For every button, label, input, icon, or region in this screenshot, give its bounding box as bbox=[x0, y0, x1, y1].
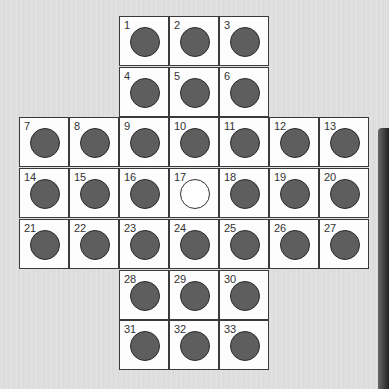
peg-icon[interactable] bbox=[130, 281, 160, 311]
board-cell-16[interactable]: 16 bbox=[119, 168, 169, 218]
cell-number-label: 23 bbox=[124, 222, 136, 234]
cell-number-label: 31 bbox=[124, 323, 136, 335]
board-cell-29[interactable]: 29 bbox=[169, 270, 219, 320]
board-cell-28[interactable]: 28 bbox=[119, 270, 169, 320]
page-edge-shadow bbox=[378, 128, 389, 389]
peg-icon[interactable] bbox=[130, 128, 160, 158]
board-cell-33[interactable]: 33 bbox=[219, 320, 269, 370]
board-cell-22[interactable]: 22 bbox=[69, 219, 119, 269]
peg-icon[interactable] bbox=[280, 128, 310, 158]
peg-icon[interactable] bbox=[280, 179, 310, 209]
peg-solitaire-board: 1234567891011121314151617181920212223242… bbox=[19, 16, 371, 370]
board-cell-30[interactable]: 30 bbox=[219, 270, 269, 320]
peg-icon[interactable] bbox=[30, 128, 60, 158]
board-cell-5[interactable]: 5 bbox=[169, 67, 219, 117]
peg-icon[interactable] bbox=[130, 230, 160, 260]
board-cell-1[interactable]: 1 bbox=[119, 16, 169, 66]
peg-icon[interactable] bbox=[180, 78, 210, 108]
cell-number-label: 32 bbox=[174, 323, 186, 335]
peg-icon[interactable] bbox=[180, 230, 210, 260]
board-cell-3[interactable]: 3 bbox=[219, 16, 269, 66]
cell-number-label: 11 bbox=[224, 120, 235, 132]
cell-number-label: 6 bbox=[224, 70, 230, 82]
board-cell-19[interactable]: 19 bbox=[269, 168, 319, 218]
board-cell-18[interactable]: 18 bbox=[219, 168, 269, 218]
cell-number-label: 15 bbox=[74, 171, 86, 183]
board-cell-23[interactable]: 23 bbox=[119, 219, 169, 269]
peg-icon[interactable] bbox=[180, 128, 210, 158]
board-cell-17[interactable]: 17 bbox=[169, 168, 219, 218]
cell-number-label: 24 bbox=[174, 222, 186, 234]
peg-icon[interactable] bbox=[180, 27, 210, 57]
board-cell-9[interactable]: 9 bbox=[119, 117, 169, 167]
peg-icon[interactable] bbox=[230, 78, 260, 108]
board-cell-10[interactable]: 10 bbox=[169, 117, 219, 167]
cell-number-label: 9 bbox=[124, 120, 130, 132]
peg-icon[interactable] bbox=[180, 331, 210, 361]
cell-number-label: 22 bbox=[74, 222, 86, 234]
peg-icon[interactable] bbox=[80, 179, 110, 209]
cell-number-label: 7 bbox=[24, 120, 30, 132]
peg-icon[interactable] bbox=[230, 179, 260, 209]
board-cell-25[interactable]: 25 bbox=[219, 219, 269, 269]
empty-hole-icon[interactable] bbox=[180, 179, 210, 209]
cell-number-label: 18 bbox=[224, 171, 236, 183]
board-cell-31[interactable]: 31 bbox=[119, 320, 169, 370]
peg-icon[interactable] bbox=[230, 230, 260, 260]
board-cell-15[interactable]: 15 bbox=[69, 168, 119, 218]
cell-number-label: 28 bbox=[124, 273, 136, 285]
peg-icon[interactable] bbox=[330, 128, 360, 158]
peg-icon[interactable] bbox=[130, 27, 160, 57]
cell-number-label: 20 bbox=[324, 171, 336, 183]
board-cell-7[interactable]: 7 bbox=[19, 117, 69, 167]
cell-number-label: 3 bbox=[224, 19, 230, 31]
peg-icon[interactable] bbox=[30, 230, 60, 260]
board-cell-4[interactable]: 4 bbox=[119, 67, 169, 117]
peg-icon[interactable] bbox=[280, 230, 310, 260]
peg-icon[interactable] bbox=[230, 27, 260, 57]
cell-number-label: 16 bbox=[124, 171, 136, 183]
board-cell-8[interactable]: 8 bbox=[69, 117, 119, 167]
cell-number-label: 26 bbox=[274, 222, 286, 234]
cell-number-label: 17 bbox=[174, 171, 186, 183]
board-cell-26[interactable]: 26 bbox=[269, 219, 319, 269]
cell-number-label: 8 bbox=[74, 120, 80, 132]
cell-number-label: 1 bbox=[124, 19, 130, 31]
board-cell-6[interactable]: 6 bbox=[219, 67, 269, 117]
peg-icon[interactable] bbox=[80, 128, 110, 158]
board-cell-2[interactable]: 2 bbox=[169, 16, 219, 66]
peg-icon[interactable] bbox=[330, 179, 360, 209]
cell-number-label: 29 bbox=[174, 273, 186, 285]
peg-icon[interactable] bbox=[230, 331, 260, 361]
cell-number-label: 4 bbox=[124, 70, 130, 82]
board-cell-13[interactable]: 13 bbox=[319, 117, 369, 167]
peg-icon[interactable] bbox=[130, 179, 160, 209]
board-cell-12[interactable]: 12 bbox=[269, 117, 319, 167]
peg-icon[interactable] bbox=[130, 78, 160, 108]
peg-icon[interactable] bbox=[30, 179, 60, 209]
cell-number-label: 30 bbox=[224, 273, 236, 285]
cell-number-label: 27 bbox=[324, 222, 336, 234]
board-cell-14[interactable]: 14 bbox=[19, 168, 69, 218]
board-cell-24[interactable]: 24 bbox=[169, 219, 219, 269]
peg-icon[interactable] bbox=[80, 230, 110, 260]
cell-number-label: 14 bbox=[24, 171, 36, 183]
peg-icon[interactable] bbox=[230, 128, 260, 158]
board-cell-21[interactable]: 21 bbox=[19, 219, 69, 269]
cell-number-label: 19 bbox=[274, 171, 286, 183]
peg-icon[interactable] bbox=[180, 281, 210, 311]
cell-number-label: 25 bbox=[224, 222, 236, 234]
cell-number-label: 2 bbox=[174, 19, 180, 31]
cell-number-label: 33 bbox=[224, 323, 236, 335]
board-cell-27[interactable]: 27 bbox=[319, 219, 369, 269]
cell-number-label: 21 bbox=[24, 222, 36, 234]
cell-number-label: 5 bbox=[174, 70, 180, 82]
peg-icon[interactable] bbox=[330, 230, 360, 260]
board-cell-11[interactable]: 11 bbox=[219, 117, 269, 167]
board-cell-20[interactable]: 20 bbox=[319, 168, 369, 218]
peg-icon[interactable] bbox=[130, 331, 160, 361]
board-cell-32[interactable]: 32 bbox=[169, 320, 219, 370]
peg-icon[interactable] bbox=[230, 281, 260, 311]
